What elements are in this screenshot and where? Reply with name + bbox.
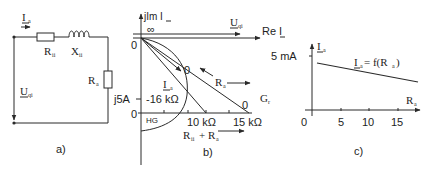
hg-label: HG (146, 116, 158, 125)
voltage-label: U (20, 85, 28, 97)
caption-a: a) (56, 143, 66, 155)
x-tick-15: 15 (391, 116, 403, 128)
svg-text:ii: ii (52, 52, 56, 58)
svg-text:+: + (199, 129, 205, 141)
curve-label: I a = f(R a ) (354, 56, 400, 69)
svg-text:a: a (414, 101, 417, 107)
svg-text:a: a (170, 85, 173, 91)
current-indicator: I a (21, 11, 31, 27)
real-axis-label: Re I (262, 25, 282, 37)
y-axis-label: I (317, 40, 321, 52)
caption-b: b) (203, 146, 213, 158)
svg-text:a: a (360, 63, 363, 69)
locus-diagram: jIm I ∞ U qi Re I 0 0 R a 0 G r (113, 11, 285, 165)
svg-text:ii: ii (79, 52, 83, 58)
svg-text:I: I (354, 56, 358, 68)
resistor-ra (104, 71, 112, 88)
svg-text:R: R (183, 129, 191, 141)
neg16k-label: -16 kΩ (146, 93, 179, 105)
ri-label: R (44, 45, 52, 57)
svg-text:qi: qi (28, 92, 33, 98)
j5a-label: j5A (113, 93, 131, 105)
uq-label: U (230, 16, 238, 28)
svg-text:R: R (208, 129, 216, 141)
origin-label: 0 (131, 39, 137, 51)
svg-text:): ) (396, 56, 400, 69)
svg-text:r: r (268, 99, 270, 105)
svg-text:a: a (392, 63, 395, 69)
svg-text:ii: ii (191, 136, 195, 142)
svg-text:a: a (323, 47, 326, 53)
resistor-ri (37, 33, 54, 41)
x-tick-0: 0 (301, 116, 307, 128)
imag-axis-label: jIm I (143, 11, 163, 22)
y-tick-5ma: 5 mA (271, 50, 297, 62)
terminal-bottom (12, 121, 15, 124)
svg-text:a: a (28, 18, 31, 24)
infinity-label: ∞ (147, 23, 155, 35)
ia-label-b: I (163, 78, 167, 90)
svg-text:= f(R: = f(R (364, 56, 388, 69)
zero-bottom-label: 0 (131, 108, 137, 120)
current-chart: I a 5 mA R a 0 5 10 15 I a = f(R a ) c) (271, 40, 420, 157)
circuit-diagram: I a R ii X ii R a U qi a) (12, 11, 112, 155)
gr-zero-label: 0 (242, 99, 248, 111)
tick-10k: 10 kΩ (187, 116, 216, 128)
x-tick-5: 5 (338, 116, 344, 128)
gr-label: G (260, 92, 268, 104)
svg-text:a: a (216, 136, 219, 142)
sum-label: R ii + R a (183, 129, 219, 142)
ra-arrow-back (200, 68, 213, 76)
caption-c: c) (354, 145, 363, 157)
ra-label-b: R (215, 76, 223, 88)
x-axis-label: R (406, 94, 414, 106)
ra-label: R (88, 74, 96, 86)
x-tick-10: 10 (362, 116, 374, 128)
svg-text:a: a (96, 81, 99, 87)
svg-text:a: a (223, 83, 226, 89)
tick-15k: 15 kΩ (233, 116, 262, 128)
current-label: I (22, 11, 26, 23)
xi-label: X (71, 45, 79, 57)
svg-text:qi: qi (238, 23, 243, 29)
inductor-xi (69, 31, 89, 37)
